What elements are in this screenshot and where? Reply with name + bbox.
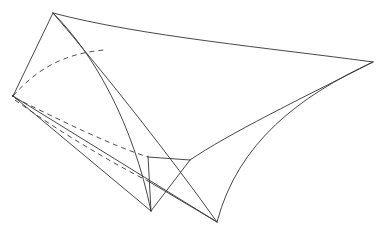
edge-apex-to-left-cusp xyxy=(13,13,53,96)
edge-hidden-lower-fold xyxy=(15,100,148,181)
edge-apex-to-bottom-left-curve xyxy=(53,13,151,211)
edge-right-cusp-to-center-node xyxy=(190,62,373,160)
edges-group xyxy=(13,13,373,222)
figure-canvas xyxy=(0,0,386,234)
edge-right-cusp-to-bottom-right-curve xyxy=(217,62,373,222)
edge-hidden-mid-fold xyxy=(15,98,148,157)
left-cusp-marker xyxy=(12,95,14,97)
edge-apex-to-bottom-right-line xyxy=(53,13,217,222)
edge-left-cusp-to-bottom-right xyxy=(13,96,217,222)
edge-top-ridge-curve xyxy=(53,13,373,62)
geometric-line-figure xyxy=(0,0,386,234)
vertex-group xyxy=(12,95,14,97)
edge-center-node-to-bottom-left xyxy=(151,160,190,211)
